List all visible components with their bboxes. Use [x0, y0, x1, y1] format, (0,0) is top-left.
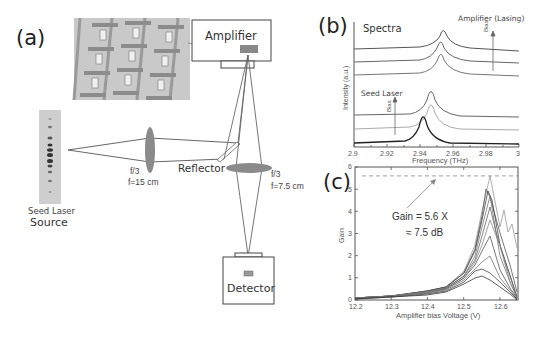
gain-ylabel: Gain: [338, 228, 345, 243]
gain-annotation-line2: ≈ 7.5 dB: [406, 228, 443, 238]
gain-xlabel: Amplifier bias Voltage (V): [396, 312, 480, 320]
gain-curves: [355, 176, 517, 300]
gain-annotation-line1: Gain = 5.6 X: [392, 212, 448, 222]
gain-chart: [0, 0, 539, 337]
gain-annotation-arrow: [407, 181, 434, 208]
